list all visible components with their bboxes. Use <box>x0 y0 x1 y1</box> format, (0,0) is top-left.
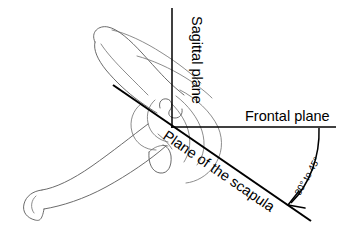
angle-range-label: 30° to 45° <box>292 155 322 197</box>
superior-border <box>112 30 201 83</box>
plane-of-scapula-label: Plane of the scapula <box>160 127 278 215</box>
medial-border-inner <box>32 196 36 213</box>
scapular-body-lower-edge <box>44 146 166 209</box>
scapular-spine-lower-edge <box>95 42 157 113</box>
frontal-plane-label: Frontal plane <box>245 108 330 124</box>
acromion-process-outline <box>94 27 184 95</box>
plane-of-scapula-line <box>113 85 311 221</box>
medial-border-flare <box>24 190 44 220</box>
diagram-canvas: Sagittal plane Frontal plane Plane of th… <box>0 0 346 239</box>
glenoid-fossa-outline <box>159 99 182 118</box>
plane-labels: Sagittal plane Frontal plane Plane of th… <box>160 16 329 215</box>
scapular-body-upper-edge <box>42 124 148 190</box>
scapula-plane-diagram: Sagittal plane Frontal plane Plane of th… <box>0 0 346 239</box>
sagittal-plane-label: Sagittal plane <box>189 16 205 104</box>
